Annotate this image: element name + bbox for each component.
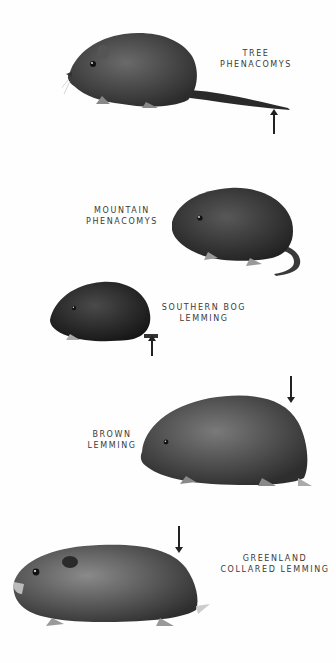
field-guide-plate: TREE PHENACOMYS MOUNTAIN PHENACOMYS SOUT… bbox=[0, 0, 336, 663]
label-southern-bog-lemming: SOUTHERN BOG LEMMING bbox=[154, 302, 254, 324]
label-tree-phenacomys: TREE PHENACOMYS bbox=[206, 48, 306, 70]
tail-arrow-southern-bog-lemming bbox=[151, 340, 153, 356]
southern-bog-lemming-illustration bbox=[48, 280, 160, 346]
greenland-collared-lemming-illustration bbox=[10, 538, 216, 628]
mountain-phenacomys-illustration bbox=[168, 182, 308, 282]
label-greenland-collared-lemming: GREENLAND COLLARED LEMMING bbox=[220, 553, 330, 575]
brown-lemming-illustration bbox=[138, 390, 316, 490]
tail-arrow-tree-phenacomys bbox=[273, 114, 275, 134]
label-mountain-phenacomys: MOUNTAIN PHENACOMYS bbox=[72, 205, 172, 227]
